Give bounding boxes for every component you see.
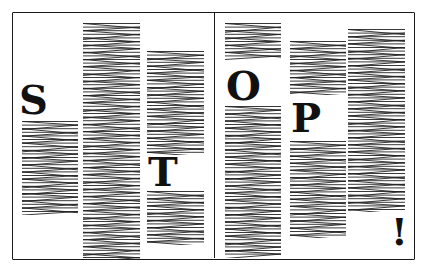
center-divider: [214, 12, 215, 258]
letter-s: S: [19, 80, 48, 120]
text-column-right-1b: [225, 105, 281, 258]
letter-o: O: [226, 66, 261, 106]
text-column-left-3b: [147, 190, 204, 245]
text-column-left-1: [22, 120, 78, 215]
text-column-right-3: [348, 28, 405, 212]
text-column-right-2b: [290, 140, 346, 238]
text-column-right-1: [225, 22, 281, 60]
letter-t: T: [148, 152, 178, 192]
letter-p: P: [291, 98, 321, 138]
text-column-left-2: [83, 22, 140, 260]
text-column-right-2: [290, 40, 346, 95]
exclamation-mark: !: [391, 213, 408, 251]
text-column-left-3: [147, 50, 204, 155]
